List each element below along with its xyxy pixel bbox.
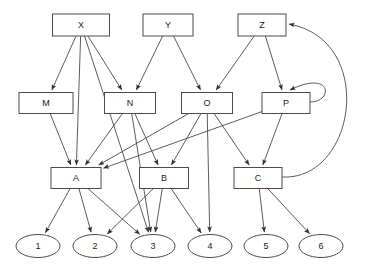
edge-Y-to-O — [174, 36, 201, 90]
node-N[interactable]: N — [105, 93, 156, 114]
node-P[interactable]: P — [262, 93, 310, 114]
edge-layer — [45, 24, 346, 234]
node-O[interactable]: O — [182, 93, 233, 114]
node-A[interactable]: A — [51, 168, 101, 189]
node-label-A: A — [73, 173, 79, 183]
node-M[interactable]: M — [19, 93, 73, 114]
node-label-1: 1 — [35, 241, 40, 251]
edge-C-to-6 — [268, 189, 310, 234]
edge-A-to-1 — [45, 189, 70, 233]
edge-Y-to-N — [136, 36, 162, 90]
node-Y[interactable]: Y — [143, 14, 193, 36]
node-label-3: 3 — [150, 241, 155, 251]
edge-N-to-B — [135, 114, 158, 166]
graph-svg: XYZMNOPABC123456 — [0, 0, 376, 269]
edge-C-to-5 — [259, 189, 264, 233]
node-6[interactable]: 6 — [299, 235, 343, 258]
node-label-P: P — [283, 98, 289, 108]
node-label-C: C — [255, 173, 262, 183]
node-label-6: 6 — [318, 241, 323, 251]
node-label-X: X — [78, 20, 84, 30]
node-5[interactable]: 5 — [244, 235, 288, 258]
edge-B-to-3 — [155, 189, 162, 233]
node-label-4: 4 — [207, 241, 212, 251]
node-label-5: 5 — [263, 241, 268, 251]
edge-P-to-C — [263, 114, 282, 166]
edge-B-to-4 — [171, 189, 201, 233]
node-C[interactable]: C — [234, 168, 282, 189]
node-layer: XYZMNOPABC123456 — [16, 14, 343, 258]
edge-Z-to-O — [216, 36, 254, 90]
node-1[interactable]: 1 — [16, 235, 60, 258]
node-label-N: N — [127, 98, 134, 108]
edge-Z-to-P — [265, 36, 282, 90]
edge-X-to-A — [76, 36, 80, 165]
node-label-2: 2 — [92, 241, 97, 251]
node-label-Y: Y — [165, 20, 171, 30]
node-X[interactable]: X — [53, 14, 110, 36]
node-4[interactable]: 4 — [188, 235, 232, 258]
edge-N-to-A — [85, 114, 122, 166]
node-3[interactable]: 3 — [131, 235, 175, 258]
node-label-B: B — [161, 173, 167, 183]
node-label-O: O — [203, 98, 210, 108]
node-2[interactable]: 2 — [73, 235, 117, 258]
edge-A-to-2 — [79, 189, 91, 233]
node-B[interactable]: B — [140, 168, 189, 189]
edge-P-to-A — [104, 112, 263, 169]
edge-X-to-M — [52, 36, 76, 90]
node-label-M: M — [42, 98, 50, 108]
node-Z[interactable]: Z — [238, 14, 286, 36]
graph-canvas: XYZMNOPABC123456 — [0, 0, 376, 269]
edge-M-to-A — [50, 114, 71, 166]
node-label-Z: Z — [259, 20, 265, 30]
edge-O-to-C — [214, 114, 249, 166]
